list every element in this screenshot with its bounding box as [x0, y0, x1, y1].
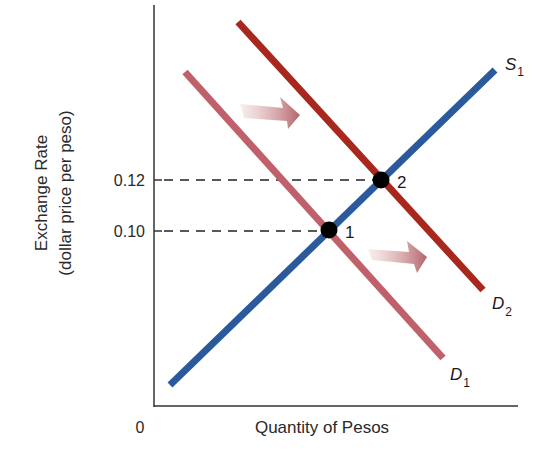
y-axis-title: Exchange Rate [32, 135, 51, 251]
demand-curve-d2 [238, 22, 483, 290]
demand-curve-d1 [185, 72, 443, 358]
shift-arrow-icon [240, 97, 300, 129]
chart: 1 2 S1 D2 D1 0.12 0.10 0 Quantity of Pes… [0, 0, 556, 457]
point-2-label: 2 [397, 173, 406, 192]
d1-label: D1 [450, 365, 470, 390]
shift-arrow-icon [368, 241, 427, 273]
s1-label: S1 [505, 55, 524, 79]
y-tick-label-012: 0.12 [114, 172, 145, 189]
origin-label: 0 [136, 419, 145, 436]
y-axis-subtitle: (dollar price per peso) [56, 110, 75, 275]
d2-label: D2 [492, 294, 512, 319]
equilibrium-point-2 [373, 172, 390, 189]
point-1-label: 1 [345, 223, 354, 242]
equilibrium-point-1 [321, 222, 338, 239]
y-tick-label-010: 0.10 [114, 223, 145, 240]
x-axis-title: Quantity of Pesos [255, 418, 389, 437]
